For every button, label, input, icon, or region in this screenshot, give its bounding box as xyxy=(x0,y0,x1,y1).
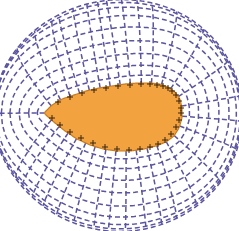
figure-root xyxy=(0,0,239,231)
mesh-figure-svg xyxy=(0,0,239,231)
radial-grid-line-23 xyxy=(125,151,126,231)
